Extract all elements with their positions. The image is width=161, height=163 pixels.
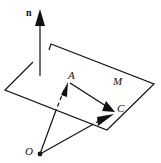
vector-ac bbox=[70, 83, 115, 112]
vector-oc bbox=[40, 114, 114, 154]
label-c: C bbox=[117, 102, 125, 114]
label-n: n bbox=[26, 7, 32, 18]
label-o: O bbox=[25, 145, 33, 157]
normal-vector bbox=[35, 9, 45, 76]
label-m: M bbox=[112, 75, 123, 87]
label-a: A bbox=[67, 69, 75, 81]
plane-m bbox=[5, 44, 154, 130]
vector-oa bbox=[40, 82, 68, 154]
plane-vector-diagram: n M A C O bbox=[0, 0, 161, 163]
origin-point bbox=[38, 152, 43, 157]
